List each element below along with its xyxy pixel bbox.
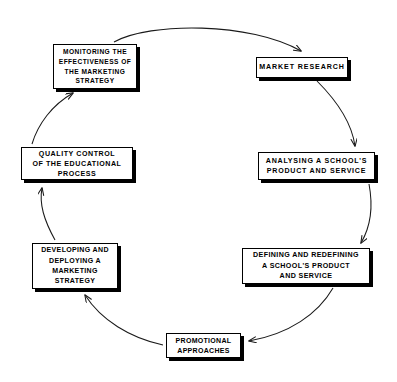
- node-defining[interactable]: DEFINING AND REDEFINING A SCHOOL'S PRODU…: [242, 248, 370, 284]
- node-defining-label: DEFINING AND REDEFINING A SCHOOL'S PRODU…: [253, 250, 359, 281]
- arrow-monitoring-to-market-research: [114, 28, 301, 51]
- node-developing-label: DEVELOPING AND DEPLOYING A MARKETING STR…: [41, 245, 109, 287]
- node-monitoring[interactable]: MONITORING THE EFFECTIVENESS OF THE MARK…: [53, 44, 137, 89]
- node-developing[interactable]: DEVELOPING AND DEPLOYING A MARKETING STR…: [32, 243, 118, 289]
- arrow-promotional-to-developing: [85, 295, 163, 345]
- arrow-market-research-to-analysing: [317, 81, 355, 146]
- arrow-defining-to-promotional: [249, 288, 333, 341]
- arrow-developing-to-quality: [41, 188, 55, 240]
- node-promotional[interactable]: PROMOTIONAL APPROACHES: [166, 333, 241, 358]
- node-market-research-label: MARKET RESEARCH: [259, 63, 345, 73]
- arrow-quality-to-monitoring: [32, 93, 73, 144]
- node-analysing[interactable]: ANALYSING A SCHOOL'S PRODUCT AND SERVICE: [258, 152, 375, 180]
- node-quality[interactable]: QUALITY CONTROL OF THE EDUCATIONAL PROCE…: [21, 147, 133, 180]
- node-monitoring-label: MONITORING THE EFFECTIVENESS OF THE MARK…: [59, 47, 131, 85]
- cycle-diagram: MONITORING THE EFFECTIVENESS OF THE MARK…: [0, 0, 397, 382]
- node-analysing-label: ANALYSING A SCHOOL'S PRODUCT AND SERVICE: [266, 156, 367, 176]
- node-quality-label: QUALITY CONTROL OF THE EDUCATIONAL PROCE…: [33, 149, 122, 179]
- node-market-research[interactable]: MARKET RESEARCH: [256, 57, 348, 78]
- node-promotional-label: PROMOTIONAL APPROACHES: [176, 336, 232, 356]
- arrow-analysing-to-defining: [361, 184, 371, 243]
